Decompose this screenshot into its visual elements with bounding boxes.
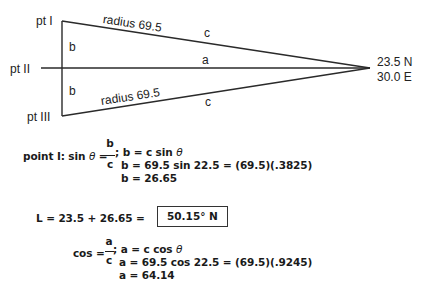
calc-a-line3: a = 64.14 bbox=[119, 270, 175, 281]
side-c-upper bbox=[62, 21, 370, 68]
label-a: a bbox=[202, 54, 209, 66]
label-pt-1: pt I bbox=[36, 15, 53, 27]
label-b-lower: b bbox=[69, 85, 76, 97]
label-pt-3: pt III bbox=[27, 111, 50, 123]
calc-b-line3: b = 26.65 bbox=[121, 173, 177, 184]
calc-L-result-box: 50.15° N bbox=[157, 206, 228, 227]
calc-a-frac-den: c bbox=[104, 255, 114, 266]
apex-longitude: 30.0 E bbox=[377, 71, 412, 83]
calc-b-line1-rest: ; b = c sin θ bbox=[115, 147, 182, 158]
label-c-lower: c bbox=[205, 96, 211, 108]
calc-b-frac-den: c bbox=[105, 159, 115, 170]
label-c-upper: c bbox=[204, 27, 210, 39]
calc-b-line2: b = 69.5 sin 22.5 = (69.5)(.3825) bbox=[121, 160, 312, 171]
calc-a-line1-rest: ; a = c cos θ bbox=[113, 244, 182, 255]
calc-a-line2: a = 69.5 cos 22.5 = (69.5)(.9245) bbox=[119, 257, 312, 268]
apex-latitude: 23.5 N bbox=[377, 56, 412, 68]
label-b-upper: b bbox=[69, 41, 76, 53]
calc-b-prefix: point I: sin θ = bbox=[23, 151, 108, 162]
calc-L-expression: L = 23.5 + 26.65 = bbox=[36, 213, 145, 224]
calc-a-prefix: cos = bbox=[73, 248, 105, 259]
label-pt-2: pt II bbox=[10, 63, 30, 75]
triangle-diagram bbox=[0, 0, 427, 130]
calc-b-frac-bar bbox=[106, 155, 115, 156]
calc-b-frac-num: b bbox=[105, 138, 115, 149]
